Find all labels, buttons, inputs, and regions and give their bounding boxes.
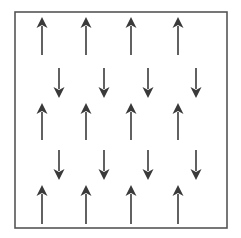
- arrow-up-icon: [173, 103, 184, 140]
- arrow-up-icon: [173, 17, 184, 55]
- arrow-up-icon: [37, 17, 48, 55]
- arrow-down-icon: [99, 68, 110, 98]
- arrow-up-icon: [81, 185, 92, 224]
- arrow-up-icon: [81, 17, 92, 55]
- arrow-up-icon: [37, 185, 48, 224]
- arrow-up-icon: [81, 103, 92, 140]
- arrow-down-icon: [143, 68, 154, 98]
- spin-lattice-diagram: [0, 0, 241, 238]
- arrow-group: [37, 17, 202, 224]
- arrow-up-icon: [126, 185, 137, 224]
- arrow-up-icon: [37, 103, 48, 140]
- arrow-up-icon: [173, 185, 184, 224]
- arrow-down-icon: [143, 150, 154, 180]
- arrow-down-icon: [191, 150, 202, 180]
- arrow-up-icon: [126, 17, 137, 55]
- arrow-down-icon: [191, 68, 202, 98]
- arrow-down-icon: [54, 68, 65, 98]
- arrow-down-icon: [99, 150, 110, 180]
- arrow-down-icon: [54, 150, 65, 180]
- arrow-up-icon: [126, 103, 137, 140]
